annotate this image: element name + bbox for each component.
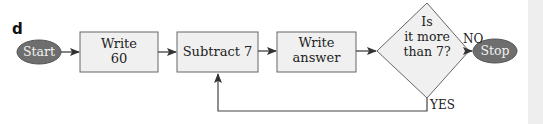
write-answer-line2: answer: [277, 50, 356, 65]
stop-label: Stop: [473, 43, 517, 58]
write-answer-label: Write answer: [277, 35, 356, 65]
decision-line1: Is: [390, 14, 464, 29]
yes-label: YES: [430, 98, 455, 113]
start-label: Start: [17, 44, 61, 59]
write60-line1: Write: [80, 36, 158, 51]
subtract-label: Subtract 7: [177, 44, 258, 59]
decision-label: Is it more than 7?: [390, 14, 464, 59]
decision-line3: than 7?: [390, 44, 464, 59]
write60-label: Write 60: [80, 36, 158, 66]
decision-line2: it more: [390, 29, 464, 44]
figure-label: d: [12, 20, 23, 38]
arrow-yes-loop: [218, 74, 427, 111]
write-answer-line1: Write: [277, 35, 356, 50]
write60-line2: 60: [80, 51, 158, 66]
